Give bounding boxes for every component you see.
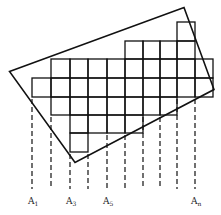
projection-label: A1 [27,196,38,207]
projection-labels: A1A3A5An [27,196,202,207]
projection-label: An [190,196,202,207]
diagram-canvas: A1A3A5An [0,0,221,215]
grid-cell [70,78,88,97]
grid-cell [88,78,107,97]
projection-label: A3 [65,196,77,207]
grid-cell [160,97,177,115]
grid-cell [51,78,70,97]
outer-rotated-rectangle [10,8,215,163]
grid-cell [125,115,143,133]
grid-cell [70,97,88,115]
grid-cell [70,115,88,133]
grid-cell [160,78,177,97]
grid-cell [177,78,195,97]
grid-cell [177,41,195,59]
grid-cell [160,41,177,59]
grid-cell [143,97,160,115]
grid-cell [160,59,177,78]
grid-cell [143,78,160,97]
square-grid [32,22,213,152]
grid-cell [143,59,160,78]
grid-cell [125,41,143,59]
grid-cell [51,97,70,115]
grid-cell [107,59,125,78]
grid-cell [88,59,107,78]
grid-cell [32,78,51,97]
grid-cell [143,41,160,59]
grid-cell [125,97,143,115]
grid-cell [107,78,125,97]
grid-cell [107,97,125,115]
grid-cell [177,59,195,78]
grid-cell [51,59,70,78]
grid-cell [70,59,88,78]
grid-cell [70,133,88,152]
grid-cell [88,115,107,133]
grid-cell [88,97,107,115]
grid-cell [125,59,143,78]
projection-label: A5 [102,196,114,207]
grid-cell [125,78,143,97]
grid-cell [107,115,125,133]
